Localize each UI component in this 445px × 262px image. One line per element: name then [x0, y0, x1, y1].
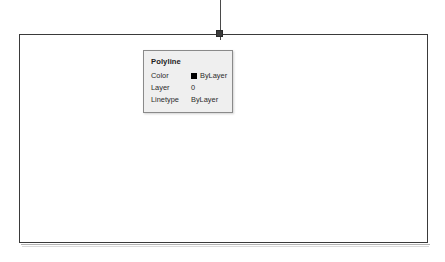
rectangle-edge-shadow — [21, 244, 430, 245]
drawing-canvas[interactable]: Polyline Color ByLayer Layer 0 Linetype … — [0, 0, 445, 262]
property-value-color-text: ByLayer — [200, 70, 227, 82]
tooltip-title: Polyline — [151, 56, 226, 67]
property-value-linetype: ByLayer — [191, 94, 218, 106]
property-value-layer: 0 — [191, 82, 195, 94]
property-label-color: Color — [151, 70, 191, 82]
property-value-color: ByLayer — [191, 70, 227, 82]
property-row-layer: Layer 0 — [151, 82, 226, 94]
property-label-linetype: Linetype — [151, 94, 191, 106]
property-row-color: Color ByLayer — [151, 70, 226, 82]
color-swatch-icon — [191, 73, 197, 79]
selection-grip[interactable] — [216, 30, 223, 37]
properties-tooltip: Polyline Color ByLayer Layer 0 Linetype … — [143, 50, 233, 113]
property-label-layer: Layer — [151, 82, 191, 94]
property-row-linetype: Linetype ByLayer — [151, 94, 226, 106]
rectangle-edge-shadow-secondary — [22, 246, 429, 247]
